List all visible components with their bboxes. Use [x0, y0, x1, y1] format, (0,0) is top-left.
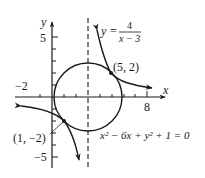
y-tick-label-5: 5	[40, 31, 46, 45]
y-tick-label-neg5: −5	[34, 150, 47, 164]
svg-text:4: 4	[127, 20, 132, 31]
x-tick-label-8: 8	[144, 100, 150, 114]
y-axis	[52, 22, 58, 168]
point-label-1-neg2: (1, −2)	[13, 131, 46, 145]
svg-text:x − 3: x − 3	[118, 33, 140, 44]
svg-text:y =: y =	[100, 24, 117, 38]
x-axis-label: x	[162, 83, 169, 97]
y-axis-label: y	[40, 15, 47, 29]
diagram: y x 5 −5 −2 8 y = 4 x − 3 (5, 2) (1, −2)…	[0, 0, 205, 178]
hyperbola-equation: y = 4 x − 3	[100, 20, 141, 44]
x-tick-label-neg2: −2	[15, 79, 28, 93]
x-axis	[15, 91, 165, 97]
point-label-5-2: (5, 2)	[113, 60, 139, 74]
circle-equation: x² − 6x + y² + 1 = 0	[99, 129, 190, 141]
